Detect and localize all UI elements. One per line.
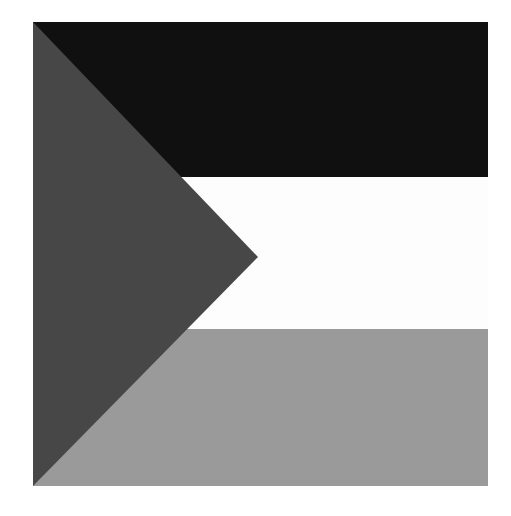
flag-illustration (0, 0, 511, 516)
image-canvas (0, 0, 511, 516)
flag-group (33, 22, 488, 486)
